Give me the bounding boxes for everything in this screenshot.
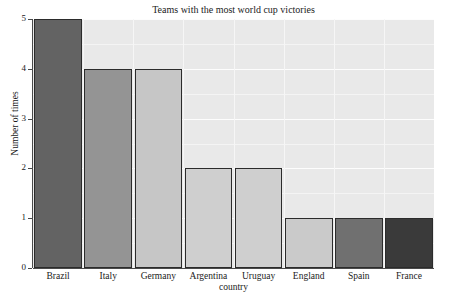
chart-title: Teams with the most world cup victories [33, 4, 434, 16]
bar-brazil[interactable] [34, 19, 82, 268]
bar-argentina[interactable] [185, 168, 233, 268]
bar-germany[interactable] [135, 69, 183, 268]
y-tick-mark [28, 69, 32, 70]
y-tick-label-5: 5 [4, 14, 26, 23]
x-axis-line [33, 268, 434, 269]
x-tick-label-argentina: Argentina [183, 271, 233, 282]
y-tick-label-4: 4 [4, 64, 26, 73]
y-axis-line [32, 19, 33, 268]
y-tick-label-3: 3 [4, 114, 26, 123]
x-tick-label-spain: Spain [334, 271, 384, 282]
x-tick-label-uruguay: Uruguay [234, 271, 284, 282]
y-tick-mark [28, 119, 32, 120]
bar-chart: Teams with the most world cup victories … [0, 0, 464, 307]
y-tick-mark [28, 19, 32, 20]
bar-england[interactable] [285, 218, 333, 268]
y-tick-mark [28, 168, 32, 169]
plot-area [33, 19, 434, 268]
bar-france[interactable] [385, 218, 433, 268]
x-axis-label: country [33, 282, 434, 293]
bar-italy[interactable] [84, 69, 132, 268]
bar-uruguay[interactable] [235, 168, 283, 268]
bar-spain[interactable] [335, 218, 383, 268]
x-tick-label-italy: Italy [83, 271, 133, 282]
y-tick-mark [28, 268, 32, 269]
x-tick-label-brazil: Brazil [33, 271, 83, 282]
y-tick-label-2: 2 [4, 163, 26, 172]
x-tick-label-england: England [284, 271, 334, 282]
y-tick-label-1: 1 [4, 213, 26, 222]
x-tick-label-france: France [384, 271, 434, 282]
y-tick-mark [28, 218, 32, 219]
x-tick-label-germany: Germany [133, 271, 183, 282]
y-tick-label-0: 0 [4, 263, 26, 272]
